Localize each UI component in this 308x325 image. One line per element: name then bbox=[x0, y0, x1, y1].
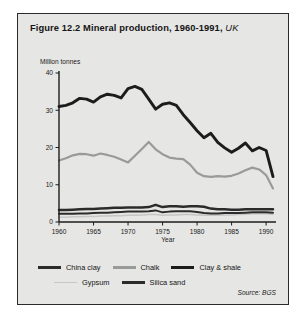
x-axis-title: Year bbox=[161, 236, 175, 243]
legend-label: Silica sand bbox=[150, 278, 186, 287]
series-line-silica-sand bbox=[59, 210, 273, 213]
legend-item-chalk: Chalk bbox=[113, 263, 160, 272]
source-note: Source: BGS bbox=[238, 289, 276, 296]
x-tick-label: 1985 bbox=[224, 228, 239, 235]
series-line-clay-shale bbox=[59, 86, 273, 176]
figure-card: Figure 12.2 Mineral production, 1960-199… bbox=[17, 13, 289, 305]
x-tick-label: 1975 bbox=[155, 228, 170, 235]
x-tick-group: 1960196519701975198019851990 bbox=[52, 222, 274, 235]
y-tick-label: 10 bbox=[46, 181, 54, 188]
legend-item-silica-sand: Silica sand bbox=[122, 278, 186, 287]
legend-swatch-icon bbox=[171, 266, 194, 269]
series-line-gypsum bbox=[59, 214, 273, 217]
legend-label: Chalk bbox=[141, 263, 160, 272]
y-tick-group: 010203040 bbox=[46, 69, 59, 225]
legend-item-clay-shale: Clay & shale bbox=[171, 263, 241, 272]
legend-label: Clay & shale bbox=[199, 263, 241, 272]
x-tick-label: 1965 bbox=[86, 228, 101, 235]
legend-item-gypsum: Gypsum bbox=[54, 278, 110, 287]
y-tick-label: 40 bbox=[46, 69, 54, 76]
legend-item-china-clay: China clay bbox=[38, 263, 101, 272]
legend-row-2: GypsumSilica sand bbox=[38, 275, 278, 290]
series-line-china-clay bbox=[59, 205, 273, 210]
series-group bbox=[59, 86, 273, 217]
x-tick-label: 1980 bbox=[190, 228, 205, 235]
x-tick-label: 1970 bbox=[121, 228, 136, 235]
y-tick-label: 0 bbox=[49, 218, 53, 225]
x-tick-label: 1960 bbox=[52, 228, 67, 235]
legend-swatch-icon bbox=[38, 266, 61, 269]
legend-swatch-icon bbox=[113, 266, 136, 268]
legend-label: China clay bbox=[66, 263, 101, 272]
chart-legend: China clayChalkClay & shale GypsumSilica… bbox=[38, 260, 278, 290]
legend-row-1: China clayChalkClay & shale bbox=[38, 260, 278, 275]
legend-swatch-icon bbox=[54, 282, 77, 284]
series-line-chalk bbox=[59, 142, 273, 189]
legend-label: Gypsum bbox=[82, 278, 110, 287]
x-tick-label: 1990 bbox=[259, 228, 274, 235]
y-tick-label: 20 bbox=[46, 144, 54, 151]
legend-swatch-icon bbox=[122, 281, 145, 283]
y-tick-label: 30 bbox=[46, 107, 54, 114]
